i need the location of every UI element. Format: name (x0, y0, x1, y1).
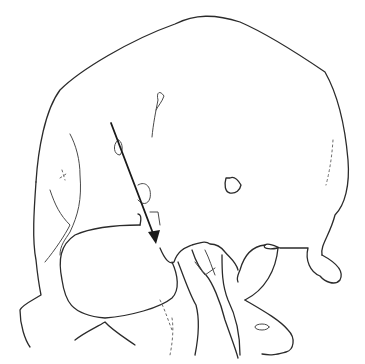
left-suture (60, 170, 66, 180)
nasal-left (178, 262, 198, 355)
right-orbit-upper (237, 245, 265, 282)
cranial-outline (36, 16, 348, 255)
frontal-foramen (225, 177, 241, 193)
left-orbit (60, 225, 177, 318)
nasal-inner (195, 250, 215, 275)
left-temporal-line-2 (45, 190, 70, 262)
left-orbit-rim (138, 214, 141, 225)
nasal-center (192, 250, 238, 358)
left-side-outline (20, 182, 41, 347)
frontal-mark (152, 93, 164, 137)
left-lower-base (75, 322, 135, 345)
arrowhead-icon (148, 230, 160, 244)
skull-illustration: skull line drawing, frontal-oblique view (0, 0, 365, 364)
right-zygomatic (264, 244, 341, 283)
left-lower-dashed (160, 300, 173, 355)
right-temporal-dashes (326, 140, 333, 185)
annotation-arrow (111, 123, 154, 236)
nasal-right (222, 255, 240, 355)
skull-drawing (0, 0, 365, 364)
right-foramen (255, 324, 269, 330)
right-cheek-line (245, 248, 278, 300)
